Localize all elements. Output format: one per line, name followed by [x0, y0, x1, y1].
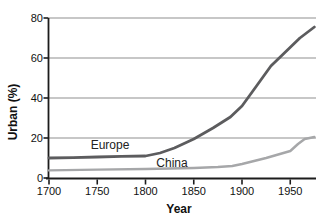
x-tick-label-1900: 1900: [230, 185, 254, 197]
x-tick-label-1700: 1700: [37, 185, 61, 197]
x-tick-label-1850: 1850: [182, 185, 206, 197]
x-axis-title: Year: [166, 202, 191, 216]
x-tick-label-1750: 1750: [85, 185, 109, 197]
x-tick-label-1950: 1950: [278, 185, 302, 197]
y-tick-label-80: 80: [31, 12, 43, 24]
urbanization-line-chart: Urban (%) Year Europe China 020406080170…: [0, 0, 325, 222]
y-axis-title: Urban (%): [6, 84, 20, 141]
y-tick-label-20: 20: [31, 132, 43, 144]
y-tick-label-40: 40: [31, 92, 43, 104]
y-tick-label-0: 0: [37, 172, 43, 184]
y-tick-label-60: 60: [31, 52, 43, 64]
x-tick-label-1800: 1800: [133, 185, 157, 197]
series-label-china: China: [156, 156, 187, 170]
series-label-europe: Europe: [91, 138, 130, 152]
